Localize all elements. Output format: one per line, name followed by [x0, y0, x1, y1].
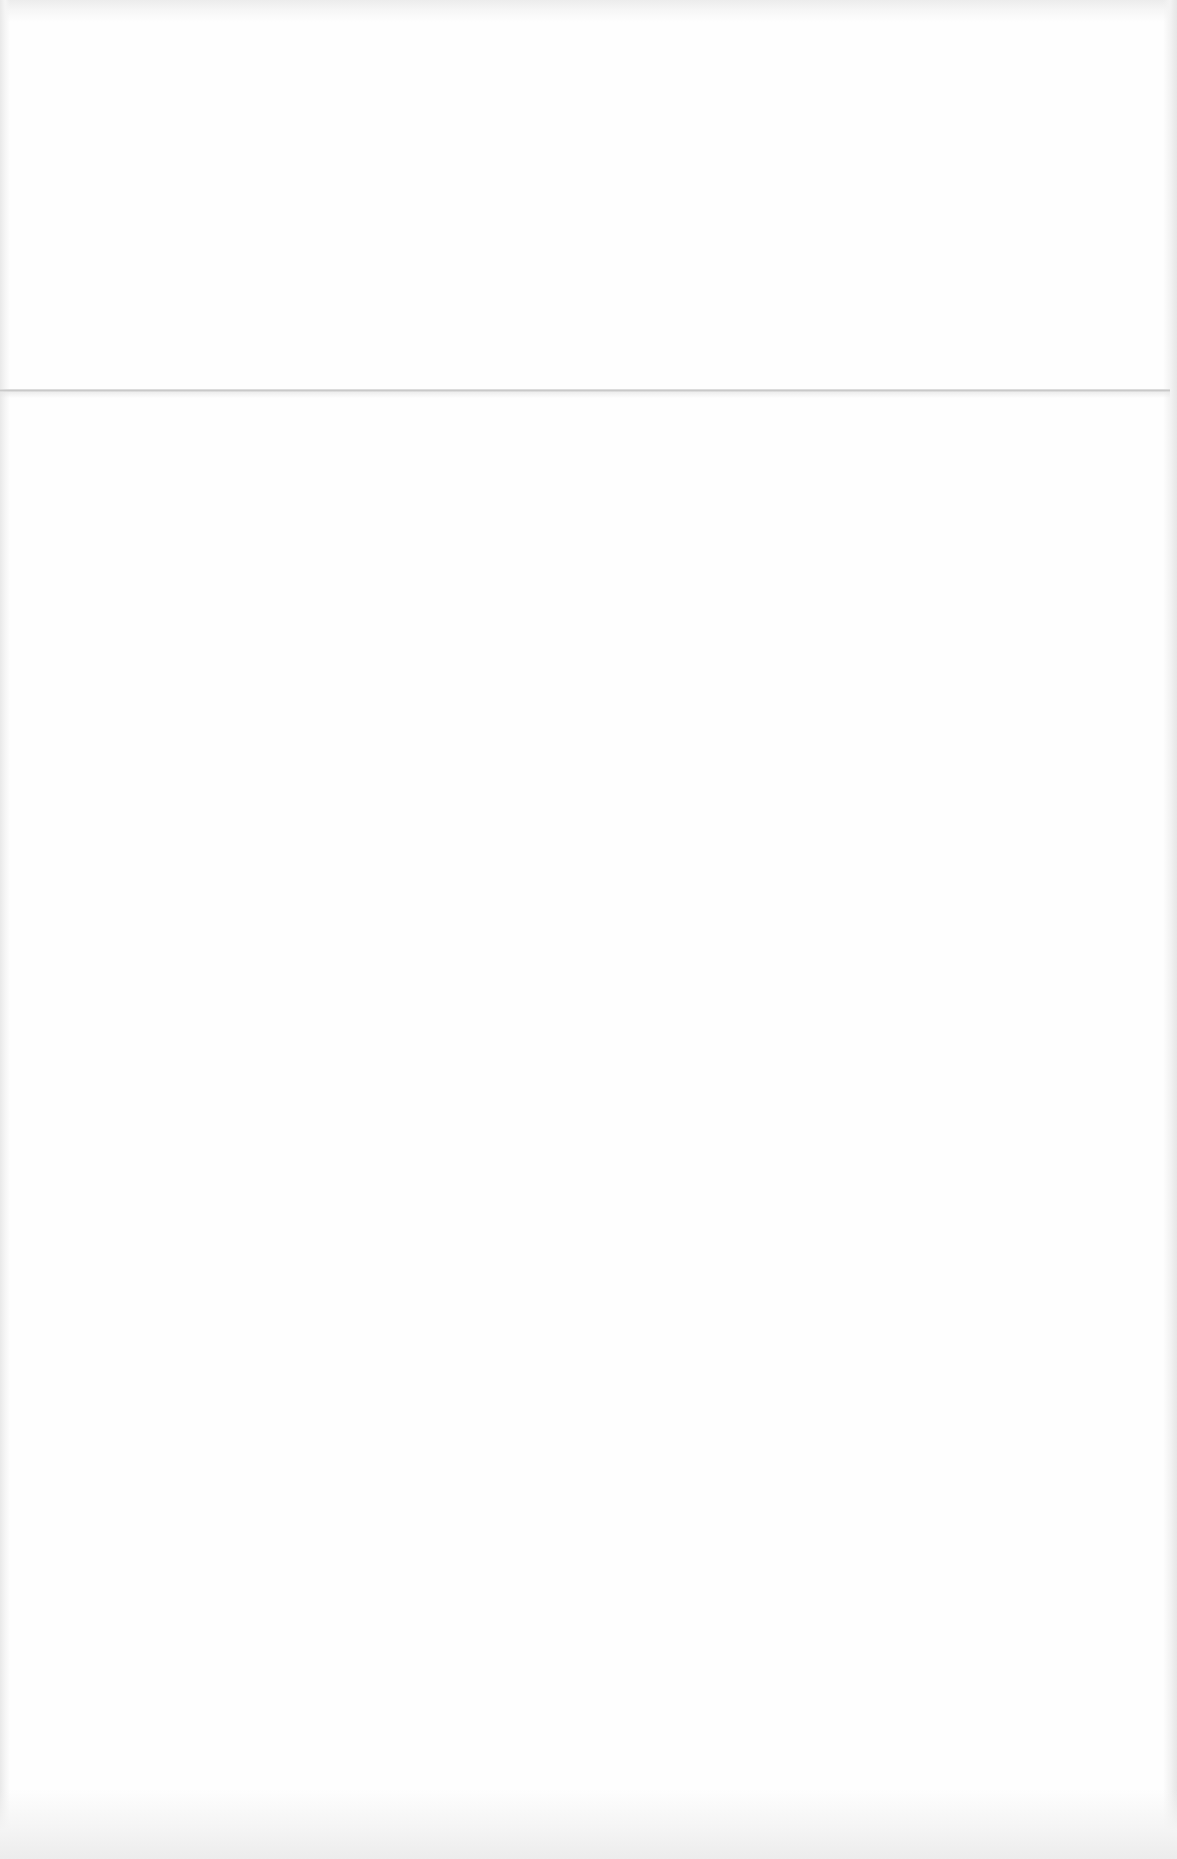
paper-left-edge-shadow: [0, 0, 10, 1859]
paper-top-edge-shadow: [0, 0, 1177, 22]
paper-right-edge-shadow: [1163, 0, 1177, 1859]
blank-paper-sheet: [0, 0, 1177, 1859]
paper-bottom-edge-shadow: [0, 1789, 1177, 1859]
fold-crease-shadow: [0, 392, 1170, 398]
